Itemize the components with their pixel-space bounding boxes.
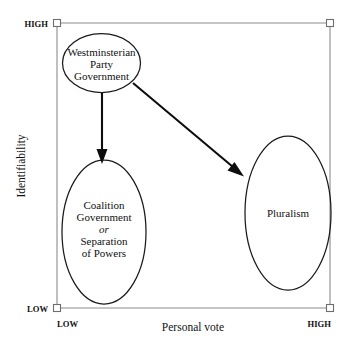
node-coalition[interactable]: Coalition Government or Separation of Po… <box>62 160 146 304</box>
node-coalition-line-4: Separation <box>80 235 128 247</box>
arrow-westminsterian-to-pluralism <box>133 83 244 177</box>
node-coalition-line-2: Government <box>77 211 132 223</box>
y-axis-high-label: HIGH <box>25 19 49 29</box>
y-axis-title: Identifiability <box>15 134 28 197</box>
arrow-diagonal-shaft <box>133 83 233 167</box>
x-axis-title: Personal vote <box>162 321 224 333</box>
x-axis-low-label: LOW <box>57 319 78 329</box>
diagram-container: HIGH LOW Identifiability LOW HIGH Person… <box>0 0 364 358</box>
node-westminsterian[interactable]: Westminsterian Party Government <box>63 34 141 93</box>
node-coalition-line-1: Coalition <box>84 199 125 211</box>
node-westminsterian-line-2: Party <box>90 58 114 70</box>
node-westminsterian-line-1: Westminsterian <box>67 46 136 58</box>
corner-marker-bottom-right <box>327 305 334 312</box>
node-coalition-line-3-or: or <box>99 223 110 235</box>
corner-marker-top-left <box>54 20 61 27</box>
corner-marker-bottom-left <box>54 305 61 312</box>
node-pluralism-label: Pluralism <box>267 207 310 219</box>
corner-marker-top-right <box>327 20 334 27</box>
y-axis-low-label: LOW <box>27 304 48 314</box>
concept-diagram-svg: HIGH LOW Identifiability LOW HIGH Person… <box>0 0 364 358</box>
node-westminsterian-line-3: Government <box>74 70 129 82</box>
arrow-westminsterian-to-coalition <box>97 93 108 164</box>
x-axis-high-label: HIGH <box>308 319 332 329</box>
node-pluralism[interactable]: Pluralism <box>245 136 331 290</box>
node-coalition-line-5: of Powers <box>82 247 126 259</box>
